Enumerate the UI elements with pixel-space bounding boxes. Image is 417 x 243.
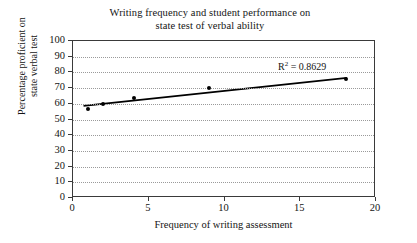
y-tick-label-90: 90	[55, 50, 66, 61]
y-tick-label-60: 60	[55, 98, 66, 109]
data-point-0	[86, 107, 90, 111]
trendline-segment	[84, 78, 347, 106]
r-squared-value: = 0.8629	[288, 61, 326, 72]
y-tick-label-0: 0	[60, 192, 65, 203]
plot-inner	[73, 41, 374, 196]
y-tick-label-40: 40	[55, 129, 66, 140]
chart-title-line-2: state test of verbal ability	[60, 19, 360, 32]
gridline-y-30	[73, 151, 374, 152]
x-tick-label-10: 10	[218, 202, 229, 213]
data-point-2	[132, 96, 136, 100]
x-tick-label-0: 0	[69, 202, 74, 213]
x-axis-ticks: 05101520	[72, 197, 375, 221]
trendline	[73, 41, 374, 196]
gridline-y-50	[73, 120, 374, 121]
y-tick-label-50: 50	[55, 113, 66, 124]
gridline-y-80	[73, 72, 374, 73]
x-tick-mark-10	[224, 197, 225, 201]
plot-area	[72, 40, 375, 197]
chart-title-line-1: Writing frequency and student performanc…	[60, 6, 360, 19]
chart-figure: Writing frequency and student performanc…	[0, 0, 417, 243]
y-tick-label-10: 10	[55, 176, 66, 187]
gridline-y-70	[73, 88, 374, 89]
x-tick-label-5: 5	[145, 202, 150, 213]
x-tick-mark-15	[299, 197, 300, 201]
x-tick-label-15: 15	[294, 202, 305, 213]
x-tick-mark-20	[375, 197, 376, 201]
gridline-y-60	[73, 104, 374, 105]
chart-title: Writing frequency and student performanc…	[60, 6, 360, 32]
r-squared-annotation: R2 = 0.8629	[278, 59, 326, 72]
y-tick-label-70: 70	[55, 82, 66, 93]
y-tick-label-100: 100	[49, 35, 65, 46]
y-tick-label-20: 20	[55, 160, 66, 171]
gridline-y-10	[73, 182, 374, 183]
r-squared-symbol: R	[278, 61, 285, 72]
x-tick-mark-0	[72, 197, 73, 201]
gridline-y-40	[73, 135, 374, 136]
y-tick-label-80: 80	[55, 66, 66, 77]
data-point-4	[344, 77, 348, 81]
y-axis-ticks: 0102030405060708090100	[0, 40, 72, 197]
gridline-y-20	[73, 167, 374, 168]
x-axis-title: Frequency of writing assessment	[72, 219, 375, 231]
x-tick-mark-5	[148, 197, 149, 201]
y-tick-label-30: 30	[55, 145, 66, 156]
x-tick-label-20: 20	[370, 202, 381, 213]
gridline-y-90	[73, 57, 374, 58]
